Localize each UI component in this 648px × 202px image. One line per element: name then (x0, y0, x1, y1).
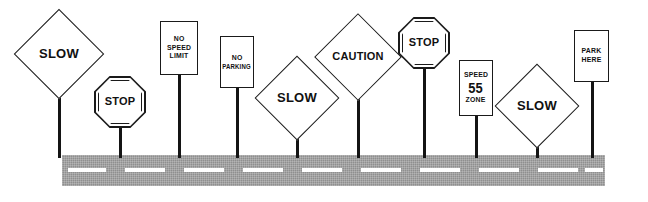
sign-label-slow-1: SLOW (28, 23, 90, 85)
sign-stop-2[interactable]: STOP (398, 17, 450, 69)
sign-speed-55-zone[interactable]: SPEED55ZONE (459, 60, 493, 116)
sign-label-slow-3: SLOW (508, 77, 566, 135)
sign-text-line: SLOW (517, 99, 557, 113)
sign-pole-park-here (591, 81, 594, 158)
sign-text-line: 55 (469, 80, 484, 96)
sign-label-stop-2: STOP (398, 17, 450, 69)
sign-label-caution: CAUTION (328, 27, 388, 87)
road-stripe (184, 168, 224, 172)
sign-label-no-speed-limit: NOSPEEDLIMIT (161, 22, 197, 74)
sign-text-line: NO (232, 54, 243, 63)
sign-park-here[interactable]: PARKHERE (574, 30, 609, 82)
sign-label-stop-1: STOP (94, 76, 146, 128)
sign-pole-stop-1 (119, 124, 122, 158)
road-signs-illustration: SLOWSTOPNOSPEEDLIMITNOPARKINGSLOWCAUTION… (0, 0, 648, 202)
octagon-outline: STOP (398, 17, 450, 69)
sign-text-line: ZONE (466, 96, 486, 105)
sign-text-line: CAUTION (332, 51, 384, 63)
sign-pole-no-parking (236, 87, 239, 158)
sign-text-line: SLOW (39, 47, 79, 61)
sign-text-line: HERE (582, 56, 602, 65)
sign-label-park-here: PARKHERE (575, 31, 608, 81)
road-stripe (420, 168, 460, 172)
road-stripe (538, 168, 578, 172)
sign-no-speed-limit[interactable]: NOSPEEDLIMIT (160, 21, 198, 75)
sign-text-line: LIMIT (170, 52, 189, 61)
sign-pole-no-speed-limit (178, 74, 181, 158)
road-stripe (479, 168, 519, 172)
sign-slow-3[interactable]: SLOW (495, 64, 580, 149)
sign-no-parking[interactable]: NOPARKING (220, 36, 254, 88)
sign-label-speed-55-zone: SPEED55ZONE (460, 61, 492, 115)
road-stripe (361, 168, 401, 172)
road-stripe (302, 168, 342, 172)
road-stripe (125, 168, 165, 172)
sign-label-slow-2: SLOW (268, 69, 326, 127)
sign-label-no-parking: NOPARKING (221, 37, 253, 87)
sign-stop-1[interactable]: STOP (94, 76, 146, 128)
sign-pole-speed-55-zone (475, 115, 478, 158)
sign-slow-1[interactable]: SLOW (14, 9, 105, 100)
sign-text-line: SLOW (277, 91, 317, 105)
road-stripe (68, 168, 106, 172)
road-stripe (585, 168, 603, 172)
sign-text-line: PARKING (223, 63, 252, 71)
sign-text-line: STOP (409, 37, 440, 49)
sign-pole-stop-2 (423, 66, 426, 158)
road-stripe (243, 168, 283, 172)
octagon-outline: STOP (94, 76, 146, 128)
sign-text-line: STOP (105, 96, 136, 108)
